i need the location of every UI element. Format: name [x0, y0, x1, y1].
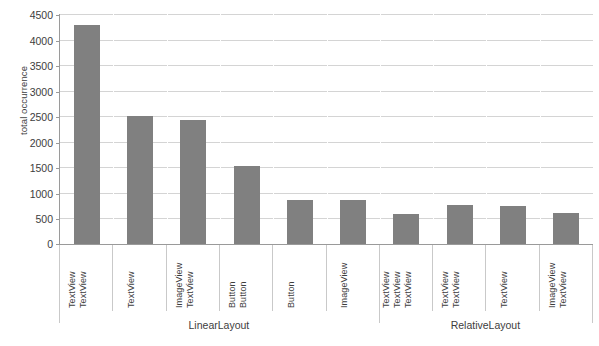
bar	[74, 25, 100, 244]
bar	[180, 120, 206, 244]
category-label: ImageView	[547, 263, 557, 308]
category-label: TextView	[185, 271, 195, 308]
category-label: ImageView	[174, 263, 184, 308]
y-axis-tick-label: 1500	[30, 162, 53, 174]
category-label-separator	[485, 245, 486, 311]
bar	[393, 214, 419, 244]
bar	[234, 166, 260, 244]
y-axis-tick-label: 500	[35, 213, 53, 225]
bar	[553, 213, 579, 244]
category-label: TextView	[126, 271, 136, 308]
y-axis-tick-label: 2000	[30, 137, 53, 149]
category-label: TextView	[403, 271, 413, 308]
group-label: LinearLayout	[59, 319, 379, 331]
group-label: RelativeLayout	[379, 319, 592, 331]
category-label: TextView	[558, 271, 568, 308]
category-label: TextView	[440, 271, 450, 308]
y-axis-tick-label: 4000	[30, 35, 53, 47]
bar-series	[60, 14, 593, 244]
bar	[500, 206, 526, 244]
bar	[127, 116, 153, 244]
category-label: TextView	[381, 271, 391, 308]
category-label: TextView	[392, 271, 402, 308]
category-label-separator	[539, 245, 540, 311]
category-label-separator	[326, 245, 327, 311]
category-label-separator	[432, 245, 433, 311]
category-label-separator	[166, 245, 167, 311]
plot-area: 050010001500200025003000350040004500	[59, 14, 593, 245]
category-label-separator	[379, 245, 380, 311]
y-axis-tick-label: 1000	[30, 188, 53, 200]
category-label: TextView	[451, 271, 461, 308]
bar	[447, 205, 473, 244]
category-label: ImageView	[339, 263, 349, 308]
category-label: TextView	[78, 271, 88, 308]
y-axis-tick-label: 3000	[30, 86, 53, 98]
category-label: Button	[238, 281, 248, 308]
y-axis-title: total occurrence	[18, 46, 29, 156]
category-label: Button	[227, 281, 237, 308]
category-label-separator	[59, 245, 60, 311]
category-axis-labels: TextViewTextViewTextViewImageViewTextVie…	[59, 245, 592, 311]
category-label-separator	[272, 245, 273, 311]
y-axis-tick-label: 0	[47, 238, 53, 250]
group-axis-labels: LinearLayoutRelativeLayout	[59, 311, 592, 341]
category-label: TextView	[499, 271, 509, 308]
category-label-separator	[592, 245, 593, 311]
group-separator	[592, 311, 593, 323]
y-axis-tick-label: 4500	[30, 9, 53, 21]
category-label-separator	[219, 245, 220, 311]
category-label: TextView	[67, 271, 77, 308]
y-axis-tick-label: 2500	[30, 111, 53, 123]
category-label: Button	[286, 281, 296, 308]
bar-chart: total occurrence 05001000150020002500300…	[0, 0, 599, 346]
bar	[340, 200, 366, 244]
bar	[287, 200, 313, 244]
y-axis-tick-label: 3500	[30, 60, 53, 72]
category-label-separator	[112, 245, 113, 311]
